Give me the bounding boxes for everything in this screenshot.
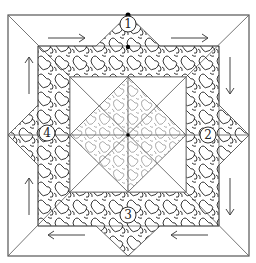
marker-2: 2 — [200, 127, 216, 143]
marker-label: 1 — [124, 17, 132, 31]
marker-label: 4 — [43, 126, 51, 140]
marker-label: 3 — [124, 208, 132, 222]
top-inner-dot — [126, 45, 130, 49]
marker-3: 3 — [120, 207, 136, 223]
marker-1: 1 — [120, 16, 136, 32]
marker-label: 2 — [204, 128, 212, 142]
center-dot — [126, 133, 130, 137]
marker-4: 4 — [39, 125, 55, 141]
quilt-diagram: 1 2 3 4 — [0, 0, 256, 263]
